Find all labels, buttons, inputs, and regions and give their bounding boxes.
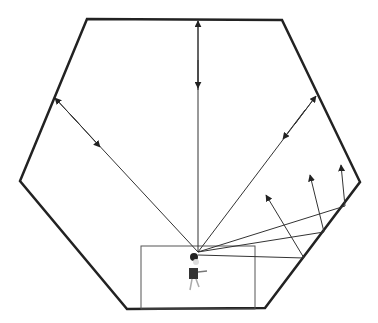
double-arrows: [55, 21, 316, 147]
person-icon: [189, 253, 207, 290]
hexagon-room-diagram: [0, 0, 378, 323]
direct-rays: [55, 21, 316, 252]
hexagon-walls: [20, 19, 360, 309]
reflected-rays: [198, 165, 345, 258]
